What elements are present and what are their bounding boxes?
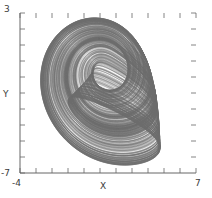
y-axis-label: Y [3,90,9,99]
x-axis-label: X [100,182,106,191]
chart-figure: Y X 3 -7 -4 7 [0,0,212,198]
attractor-trajectory [41,18,160,165]
y-min-tick-label: -7 [1,169,10,178]
x-min-tick-label: -4 [12,179,21,188]
x-max-tick-label: 7 [195,179,201,188]
y-max-tick-label: 3 [4,5,10,14]
attractor-plot [0,0,212,198]
